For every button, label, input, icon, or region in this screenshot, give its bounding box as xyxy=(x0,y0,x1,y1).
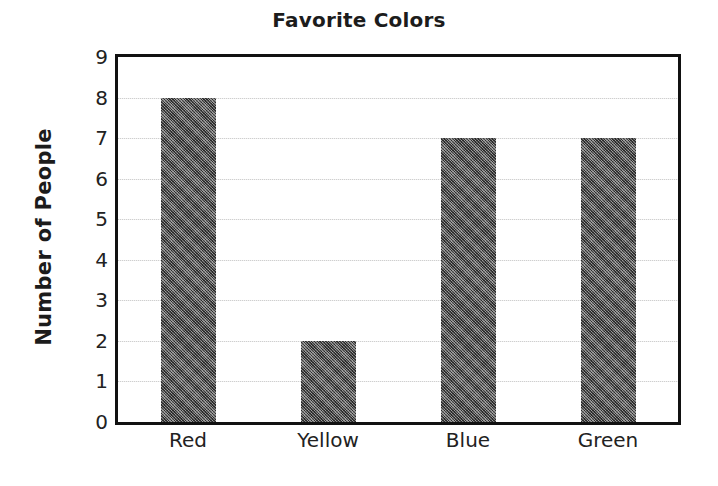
x-tick-label: Blue xyxy=(398,428,538,452)
y-tick-label: 4 xyxy=(78,250,108,270)
bar-chart: Favorite Colors Number of People 9876543… xyxy=(0,0,718,486)
y-tick-label: 3 xyxy=(78,290,108,310)
y-axis-title: Number of People xyxy=(32,107,56,367)
x-tick-label: Green xyxy=(538,428,678,452)
x-tick-label: Red xyxy=(118,428,258,452)
y-tick-label: 8 xyxy=(78,88,108,108)
y-tick-label: 6 xyxy=(78,169,108,189)
plot-area xyxy=(115,54,681,425)
bar xyxy=(161,98,216,422)
y-tick-label: 5 xyxy=(78,209,108,229)
x-tick-label: Yellow xyxy=(258,428,398,452)
bar xyxy=(581,138,636,422)
plot-inner xyxy=(118,57,678,422)
y-tick-label: 2 xyxy=(78,331,108,351)
y-tick-label: 9 xyxy=(78,47,108,67)
y-axis-tick-labels: 9876543210 xyxy=(78,0,108,486)
x-axis-tick-labels: RedYellowBlueGreen xyxy=(115,428,681,458)
bar xyxy=(441,138,496,422)
y-tick-label: 7 xyxy=(78,128,108,148)
y-tick-label: 0 xyxy=(78,412,108,432)
y-tick-label: 1 xyxy=(78,371,108,391)
bar xyxy=(301,341,356,422)
